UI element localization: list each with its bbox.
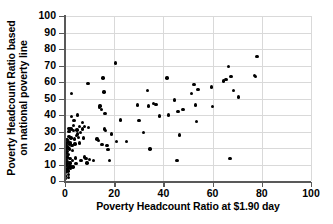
data-point	[77, 136, 80, 139]
gridline-horizontal	[65, 82, 311, 83]
data-point	[254, 75, 257, 78]
data-point	[142, 131, 145, 134]
data-point	[101, 76, 104, 79]
y-axis-tick-label: 10	[14, 159, 56, 170]
data-point	[86, 82, 89, 85]
y-axis-tick-label: 40	[14, 109, 56, 120]
data-point	[137, 119, 140, 122]
data-point	[210, 85, 213, 88]
data-point	[83, 125, 86, 128]
data-point	[196, 88, 199, 91]
gridline-horizontal	[65, 49, 311, 50]
gridline-vertical	[311, 16, 312, 181]
data-point	[85, 161, 88, 164]
data-point	[81, 121, 84, 124]
data-point	[136, 103, 139, 106]
data-point	[74, 156, 77, 159]
data-point	[102, 90, 105, 93]
y-axis-tick	[59, 115, 64, 116]
data-point	[232, 89, 235, 92]
data-point	[115, 140, 118, 143]
gridline-horizontal	[65, 165, 311, 166]
data-point	[88, 158, 91, 161]
y-axis-tick-label: 100	[14, 10, 56, 21]
data-point	[224, 78, 227, 81]
gridline-horizontal	[65, 16, 311, 17]
data-point	[227, 65, 230, 68]
data-point	[76, 113, 79, 116]
y-axis-tick	[59, 66, 64, 67]
data-point	[173, 98, 176, 101]
data-point	[158, 114, 161, 117]
y-axis-tick	[59, 99, 64, 100]
gridline-horizontal	[65, 132, 311, 133]
gridline-horizontal	[65, 33, 311, 34]
data-point	[154, 103, 157, 106]
data-point	[73, 142, 76, 145]
y-axis-tick	[59, 148, 64, 149]
gridline-horizontal	[65, 99, 311, 100]
x-axis-tick-label: 80	[242, 187, 282, 199]
data-point	[70, 92, 73, 95]
data-point	[119, 118, 122, 121]
data-point	[71, 149, 74, 152]
y-axis-tick	[59, 33, 64, 34]
data-point	[82, 136, 85, 139]
data-point	[176, 110, 179, 113]
data-point	[147, 104, 150, 107]
data-point	[165, 76, 168, 79]
data-point	[181, 108, 184, 111]
y-axis-tick	[59, 181, 64, 182]
y-axis-tick-label: 50	[14, 93, 56, 104]
data-point	[237, 95, 240, 98]
data-point	[78, 141, 81, 144]
data-point	[105, 144, 108, 147]
data-point	[125, 140, 128, 143]
data-point	[73, 137, 76, 140]
data-point	[108, 159, 111, 162]
data-point	[79, 159, 82, 162]
y-axis-line	[64, 15, 66, 182]
data-point	[97, 139, 100, 142]
scatter-chart-figure: Poverty Headcount Ratio based on nationa…	[0, 0, 333, 224]
y-axis-tick-label: 80	[14, 43, 56, 54]
data-point	[72, 119, 75, 122]
data-point	[255, 55, 258, 58]
gridline-horizontal	[65, 115, 311, 116]
data-point	[190, 92, 193, 95]
data-point	[175, 159, 178, 162]
data-point	[79, 131, 82, 134]
y-axis-tick-label: 30	[14, 126, 56, 137]
y-axis-tick	[59, 16, 64, 17]
plot-area	[65, 16, 311, 181]
data-point	[195, 120, 198, 123]
data-point	[70, 115, 73, 118]
x-axis-tick-label: 60	[193, 187, 233, 199]
data-point	[100, 108, 103, 111]
data-point	[194, 103, 197, 106]
x-axis-tick-label: 20	[94, 187, 134, 199]
y-axis-tick	[59, 165, 64, 166]
gridline-vertical	[262, 16, 263, 181]
gridline-vertical	[163, 16, 164, 181]
data-point	[87, 126, 90, 129]
data-point	[67, 176, 70, 179]
data-point	[228, 157, 231, 160]
gridline-vertical	[213, 16, 214, 181]
data-point	[67, 153, 70, 156]
data-point	[114, 61, 117, 64]
x-axis-title: Poverty Headcount Ratio at $1.90 day	[65, 200, 311, 212]
y-axis-tick-label: 0	[14, 175, 56, 186]
data-point	[192, 83, 195, 86]
x-axis-tick-label: 100	[291, 187, 331, 199]
y-axis-tick	[59, 49, 64, 50]
data-point	[167, 113, 170, 116]
data-point	[178, 133, 181, 136]
y-axis-tick-label: 60	[14, 76, 56, 87]
data-point	[71, 165, 74, 168]
data-point	[103, 112, 106, 115]
gridline-horizontal	[65, 66, 311, 67]
data-point	[146, 89, 149, 92]
x-axis-tick-label: 40	[143, 187, 183, 199]
y-axis-tick-label: 70	[14, 60, 56, 71]
